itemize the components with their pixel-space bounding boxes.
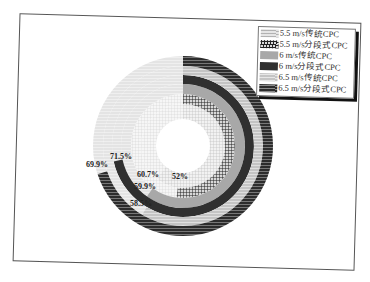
legend-label: 6.5 m/s分段式CPC: [278, 83, 346, 96]
label-5-5-traditional: 60.7%: [137, 170, 159, 179]
dark-swatch-icon: [260, 62, 278, 70]
grey-swatch-icon: [260, 51, 278, 59]
label-6-segmented: 71.5%: [110, 152, 132, 161]
fine-grid-swatch-icon: [261, 29, 279, 37]
dark-stripe-swatch-icon: [259, 84, 277, 92]
cross-hatch-swatch-icon: [260, 40, 278, 48]
label-5-5-segmented: 52%: [172, 172, 188, 181]
legend: 5.5 m/s传统CPC 5.5 m/s分段式CPC 6 m/s传统CPC 6 …: [256, 26, 356, 99]
label-6-5-traditional: 58.5%: [130, 199, 152, 208]
label-6-5-segmented: 69.9%: [86, 160, 108, 169]
light-stripe-swatch-icon: [259, 73, 277, 81]
legend-item-6-5-segmented: 6.5 m/s分段式CPC: [259, 82, 353, 96]
ring-group: [98, 56, 273, 236]
label-6-traditional: 59.9%: [134, 182, 156, 191]
